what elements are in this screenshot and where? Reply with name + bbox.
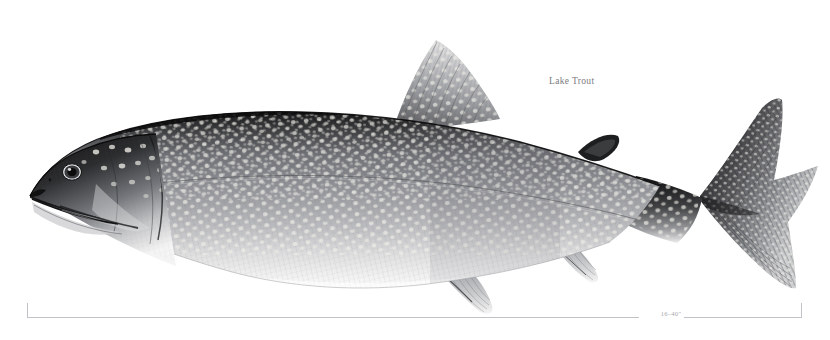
- lake-trout-illustration: [0, 0, 830, 340]
- eye: [63, 164, 82, 180]
- scale-range-label: 16–40": [647, 311, 695, 318]
- scale-bar-right-cap: [801, 303, 802, 318]
- scale-bar-line-left: [27, 317, 639, 318]
- illustration-plate: Lake Trout 16–40": [0, 0, 830, 340]
- caudal-fin: [690, 90, 830, 300]
- nostril: [49, 179, 52, 182]
- scale-bar: 16–40": [27, 303, 802, 325]
- scale-bar-line-right: [684, 317, 802, 318]
- species-name-label: Lake Trout: [549, 77, 594, 87]
- scale-bar-left-cap: [27, 303, 28, 318]
- adipose-fin: [578, 135, 619, 161]
